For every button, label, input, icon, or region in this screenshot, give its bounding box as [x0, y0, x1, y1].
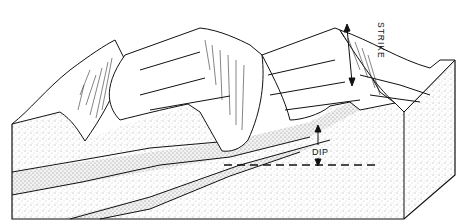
strike-dip-diagram: STRIKE DIP — [0, 0, 472, 224]
strike-label: STRIKE — [376, 22, 386, 59]
block-diagram-svg — [0, 0, 472, 224]
dip-label: DIP — [312, 147, 329, 157]
